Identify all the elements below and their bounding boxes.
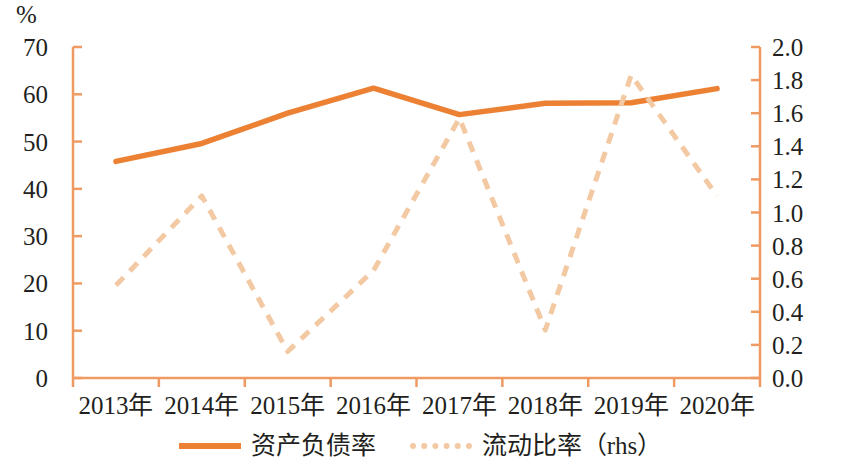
legend-label: 流动比率（rhs）	[482, 432, 663, 459]
x-axis-tick-label: 2020年	[680, 392, 755, 419]
legend-item[interactable]: 资产负债率	[179, 432, 376, 459]
legend-solid-line-icon	[179, 443, 241, 449]
legend-item[interactable]: 流动比率（rhs）	[410, 432, 663, 459]
x-axis-tick-label: 2019年	[594, 392, 669, 419]
legend-label: 资产负债率	[251, 432, 376, 459]
x-axis-tick-label: 2013年	[78, 392, 153, 419]
x-axis-tick-labels: 2013年2014年2015年2016年2017年2018年2019年2020年	[0, 0, 841, 466]
x-axis-tick-label: 2018年	[508, 392, 583, 419]
chart-legend: 资产负债率流动比率（rhs）	[0, 432, 841, 459]
chart-container: % 010203040506070 0.00.20.40.60.81.01.21…	[0, 0, 841, 466]
x-axis-tick-label: 2016年	[336, 392, 411, 419]
x-axis-tick-label: 2015年	[250, 392, 325, 419]
legend-dashed-line-icon	[410, 443, 472, 449]
x-axis-tick-label: 2014年	[164, 392, 239, 419]
x-axis-tick-label: 2017年	[422, 392, 497, 419]
